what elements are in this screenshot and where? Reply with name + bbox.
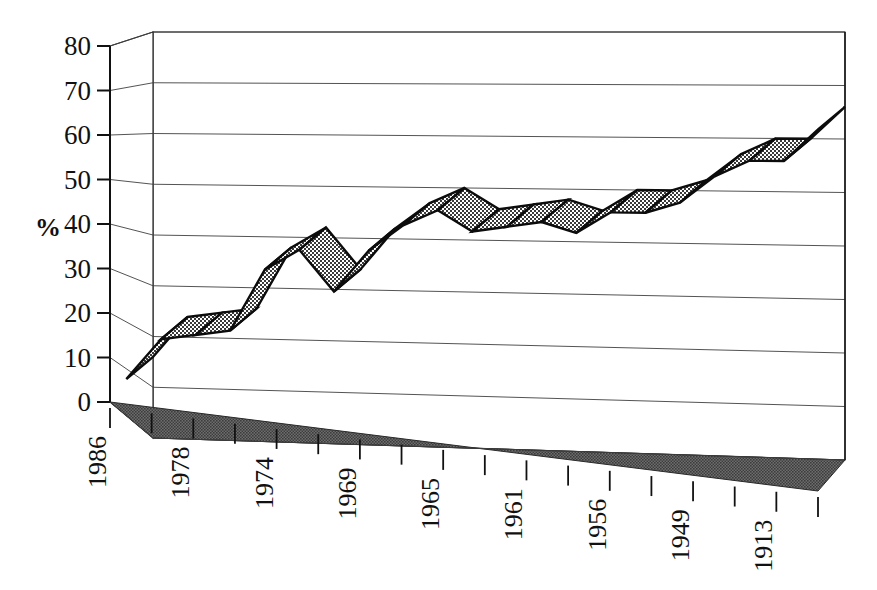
x-tick-label: 1956	[583, 499, 612, 551]
x-tick-label: 1949	[666, 509, 695, 561]
x-tick-label: 1913	[749, 520, 778, 572]
y-tick-label: 70	[64, 76, 91, 106]
x-tick-label: 1965	[416, 478, 445, 530]
y-tick-label: 40	[64, 209, 91, 239]
y-tick-label: 30	[64, 254, 91, 284]
x-tick-label: 1961	[499, 488, 528, 540]
x-tick-label: 1978	[166, 446, 195, 498]
y-axis-ticks	[97, 46, 110, 402]
y-tick-label: 10	[64, 343, 91, 373]
x-tick-label: 1986	[83, 436, 112, 488]
x-tick-label: 1969	[333, 467, 362, 519]
y-tick-label: 60	[64, 120, 91, 150]
y-tick-label: 0	[78, 387, 92, 417]
y-axis-tick-labels: 01020304050607080	[64, 31, 91, 417]
chart-canvas: 01020304050607080 % 19861978197419691965…	[0, 0, 877, 590]
y-tick-label: 80	[64, 31, 91, 61]
left-wall	[110, 32, 153, 438]
y-axis-unit-label: %	[35, 213, 61, 242]
back-wall	[153, 32, 845, 460]
x-tick-label: 1974	[250, 457, 279, 509]
y-tick-label: 50	[64, 165, 91, 195]
three-d-line-chart: 01020304050607080 % 19861978197419691965…	[0, 0, 877, 590]
y-tick-label: 20	[64, 298, 91, 328]
